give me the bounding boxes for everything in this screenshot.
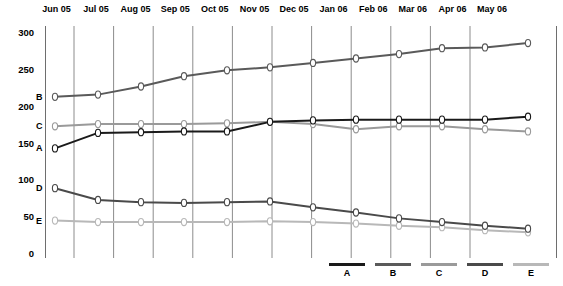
data-point-marker [396, 215, 401, 222]
data-point-marker [52, 185, 57, 192]
data-point-marker [439, 116, 444, 123]
series-label-c: C [36, 121, 43, 131]
data-point-marker [267, 118, 272, 125]
legend-item-b[interactable]: B [371, 260, 415, 278]
data-point-marker [439, 218, 444, 225]
data-point-marker [353, 55, 358, 62]
series-line-b [55, 43, 528, 97]
data-point-marker [181, 120, 186, 127]
data-point-marker [138, 129, 143, 136]
data-point-marker [267, 218, 272, 225]
data-point-marker [52, 123, 57, 130]
legend-label-c: C [417, 268, 461, 278]
data-point-marker [52, 145, 57, 152]
data-point-marker [138, 83, 143, 90]
plot-area [0, 0, 563, 286]
legend-swatch-e [513, 263, 549, 266]
legend-label-e: E [509, 268, 553, 278]
data-point-marker [353, 220, 358, 227]
data-point-marker [138, 218, 143, 225]
data-point-marker [396, 222, 401, 229]
data-point-marker [310, 204, 315, 211]
data-point-marker [267, 64, 272, 71]
series-label-b: B [36, 92, 43, 102]
data-point-marker [267, 198, 272, 205]
data-point-marker [181, 199, 186, 206]
series-label-a: A [36, 143, 43, 153]
data-point-marker [52, 217, 57, 224]
data-point-marker [95, 129, 100, 136]
data-point-marker [353, 116, 358, 123]
legend-item-e[interactable]: E [509, 260, 553, 278]
data-point-marker [181, 73, 186, 80]
legend-item-d[interactable]: D [463, 260, 507, 278]
data-point-marker [482, 44, 487, 51]
data-point-marker [353, 209, 358, 216]
legend-swatch-a [329, 263, 365, 266]
series-line-c [55, 122, 528, 132]
series-label-e: E [36, 216, 42, 226]
data-point-marker [482, 222, 487, 229]
legend-swatch-c [421, 263, 457, 266]
data-point-marker [95, 91, 100, 98]
data-point-marker [224, 120, 229, 127]
legend-label-b: B [371, 268, 415, 278]
legend-label-a: A [325, 268, 369, 278]
data-point-marker [52, 93, 57, 100]
data-point-marker [396, 116, 401, 123]
data-point-marker [224, 128, 229, 135]
data-point-marker [525, 128, 530, 135]
data-point-marker [224, 67, 229, 74]
chart-legend: ABCDE [325, 260, 555, 284]
data-point-marker [310, 59, 315, 66]
data-point-marker [482, 126, 487, 133]
data-point-marker [95, 196, 100, 203]
legend-swatch-d [467, 263, 503, 266]
legend-label-d: D [463, 268, 507, 278]
data-point-marker [181, 128, 186, 135]
data-point-marker [138, 199, 143, 206]
data-point-marker [482, 116, 487, 123]
legend-swatch-b [375, 263, 411, 266]
series-label-d: D [36, 183, 43, 193]
data-point-marker [181, 218, 186, 225]
data-point-marker [439, 45, 444, 52]
data-point-marker [138, 120, 143, 127]
data-point-marker [224, 218, 229, 225]
legend-item-c[interactable]: C [417, 260, 461, 278]
legend-item-a[interactable]: A [325, 260, 369, 278]
data-point-marker [525, 225, 530, 232]
data-point-marker [525, 39, 530, 46]
line-chart: Jun 05Jul 05Aug 05Sep 05Oct 05Nov 05Dec … [0, 0, 563, 286]
data-point-marker [525, 113, 530, 120]
data-point-marker [310, 117, 315, 124]
data-point-marker [95, 218, 100, 225]
series-line-a [55, 117, 528, 149]
data-point-marker [224, 199, 229, 206]
data-point-marker [396, 51, 401, 58]
data-point-marker [353, 126, 358, 133]
data-point-marker [95, 120, 100, 127]
data-point-marker [310, 218, 315, 225]
